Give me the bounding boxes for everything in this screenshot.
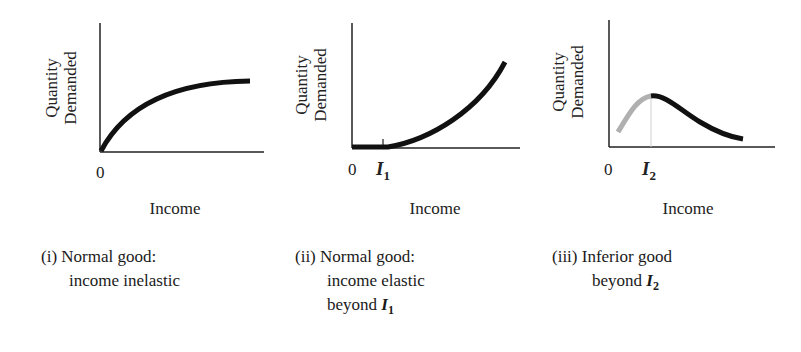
demand-curve (352, 62, 505, 147)
caption-line-1: Normal good: (320, 247, 415, 266)
caption-text: beyond (327, 295, 381, 314)
x-axis-label: Income (663, 199, 714, 218)
caption-variable: I (381, 295, 388, 314)
origin-label: 0 (604, 160, 613, 179)
origin-label: 0 (348, 160, 357, 179)
origin-label: 0 (96, 163, 105, 182)
y-axis-label-line1: Quantity (42, 58, 61, 118)
caption-text: beyond (592, 271, 646, 290)
caption-line-2: income inelastic (41, 269, 180, 293)
caption-panel-1: (i) Normal good: income inelastic (41, 245, 180, 293)
demand-curve (101, 81, 250, 151)
caption-number: (ii) (295, 247, 316, 266)
y-axis-label-line2: Demanded (61, 51, 80, 125)
y-axis-label-line1: Quantity (292, 55, 311, 115)
x-axis-label: Income (410, 199, 461, 218)
caption-line-1: Normal good: (61, 247, 156, 266)
caption-number: (iii) (552, 247, 578, 266)
caption-number: (i) (41, 247, 57, 266)
caption-line-1: Inferior good (582, 247, 672, 266)
panel-3-chart: Quantity Demanded 0 I2 Income (549, 20, 775, 218)
y-axis-label-line1: Quantity (549, 52, 568, 112)
caption-line-2: beyond I2 (552, 269, 672, 298)
y-axis-label-line2: Demanded (311, 48, 330, 122)
rising-segment-curve (618, 96, 651, 132)
caption-variable: I (646, 271, 653, 290)
y-axis-label-line2: Demanded (568, 45, 587, 119)
caption-subscript: 2 (653, 279, 659, 293)
caption-panel-3: (iii) Inferior good beyond I2 (552, 245, 672, 298)
caption-line-2: income elastic (295, 269, 425, 293)
caption-panel-2: (ii) Normal good: income elastic beyond … (295, 245, 425, 322)
caption-line-3: beyond I1 (295, 293, 425, 322)
x-axis-label: Income (150, 199, 201, 218)
i2-tick-label: I2 (641, 158, 656, 183)
i1-tick-label: I1 (375, 158, 390, 183)
panel-2-chart: Quantity Demanded 0 I1 Income (292, 23, 520, 218)
panel-1-chart: Quantity Demanded 0 Income (42, 23, 264, 218)
caption-subscript: 1 (388, 303, 394, 317)
falling-segment-curve (651, 96, 743, 139)
